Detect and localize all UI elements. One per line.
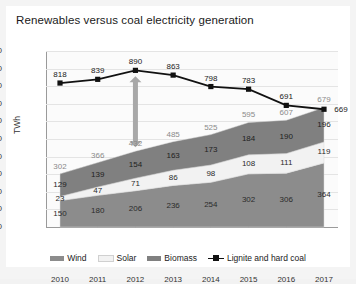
legend-item-lignite-and-hard-coal[interactable]: Lignite and hard coal [208,253,306,263]
legend-swatch-icon [50,256,64,261]
y-axis-tick-label: 100 [0,204,2,213]
y-axis-tick-label: 600 [0,116,2,125]
y-axis-tick-label: 0 [0,222,2,231]
legend-item-label: Lignite and hard coal [227,253,306,263]
x-axis-tick-label: 2017 [304,275,344,284]
coal-data-point [246,87,251,92]
y-axis-tick-label: 1000 [0,46,2,55]
plot-area: 10009008007006005004003002001000 2010201… [46,51,338,227]
x-axis-tick-label: 2015 [229,275,269,284]
legend-swatch-icon [147,256,161,261]
chart-card: Renewables versus coal electricity gener… [6,6,350,267]
coal-data-point [57,80,62,85]
legend-item-wind[interactable]: Wind [50,253,86,263]
x-axis-tick-label: 2011 [78,275,118,284]
x-axis-tick-label: 2016 [266,275,306,284]
y-axis-tick-label: 400 [0,152,2,161]
coal-data-point [133,68,138,73]
coal-data-point [284,103,289,108]
y-axis-tick-label: 800 [0,81,2,90]
coal-data-point [171,73,176,78]
chart-legend: WindSolarBiomassLignite and hard coal [6,253,350,263]
legend-item-label: Biomass [164,253,197,263]
x-axis-tick-label: 2010 [40,275,80,284]
coal-data-point [95,77,100,82]
gap-arrow-annotation [129,76,141,147]
y-axis-tick-label: 900 [0,64,2,73]
y-axis-tick-label: 200 [0,187,2,196]
legend-item-label: Solar [117,253,137,263]
y-axis-tick-label: 500 [0,134,2,143]
x-axis-tick-label: 2014 [191,275,231,284]
chart-svg [46,51,338,227]
y-axis-tick-label: 700 [0,99,2,108]
x-axis-tick-label: 2013 [153,275,193,284]
chart-title: Renewables versus coal electricity gener… [16,14,254,26]
y-axis-tick-label: 300 [0,169,2,178]
y-axis-label: TWh [12,116,22,134]
legend-item-solar[interactable]: Solar [98,253,137,263]
x-axis-tick-label: 2012 [115,275,155,284]
legend-swatch-icon [98,255,114,262]
coal-data-point [321,107,326,112]
coal-data-point [208,84,213,89]
legend-line-marker-icon [208,255,224,262]
legend-item-label: Wind [67,253,86,263]
legend-item-biomass[interactable]: Biomass [147,253,197,263]
